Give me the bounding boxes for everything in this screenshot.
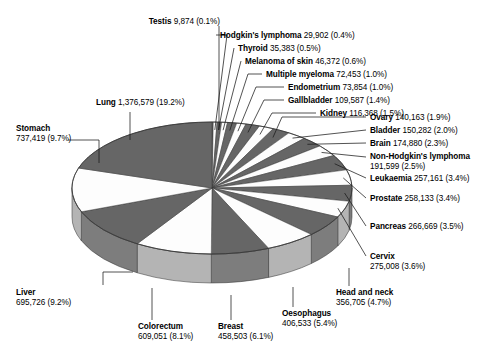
label-bladder: Bladder 150,282 (2.0%) xyxy=(370,126,458,136)
label-breast: Breast458,503 (6.1%) xyxy=(218,322,302,341)
label-hodgkins-lymphoma: Hodgkin's lymphoma 29,902 (0.4%) xyxy=(220,31,355,41)
label-stomach: Stomach737,419 (9.7%) xyxy=(16,124,102,143)
leader-bladder xyxy=(293,130,366,138)
label-pancreas: Pancreas 266,669 (3.5%) xyxy=(370,222,464,232)
label-lung: Lung 1,376,579 (19.2%) xyxy=(96,98,185,108)
leader-liver xyxy=(103,272,133,285)
label-leukaemia: Leukaemia 257,161 (3.4%) xyxy=(370,174,469,184)
leader-multiple-myeloma xyxy=(230,74,262,131)
label-cervix: Cervix275,008 (3.6%) xyxy=(370,252,482,271)
leader-melanoma-of-skin xyxy=(223,61,241,130)
label-head-and-neck: Head and neck356,705 (4.7%) xyxy=(336,288,432,307)
label-thyroid: Thyroid 35,383 (0.5%) xyxy=(238,44,321,54)
label-liver: Liver695,726 (9.2%) xyxy=(16,288,102,307)
label-colorectum: Colorectum609,051 (8.1%) xyxy=(138,322,224,341)
pie-top-faces xyxy=(72,122,352,254)
label-multiple-myeloma: Multiple myeloma 72,453 (1.0%) xyxy=(266,70,387,80)
label-testis: Testis 9,874 (0.1%) xyxy=(64,17,220,27)
pie-chart-figure: Testis 9,874 (0.1%) Hodgkin's lymphoma 2… xyxy=(0,0,486,352)
label-brain: Brain 174,880 (2.3%) xyxy=(370,139,448,149)
label-gallbladder: Gallbladder 109,587 (1.4%) xyxy=(288,96,390,106)
label-endometrium: Endometrium 73,854 (1.0%) xyxy=(288,83,393,93)
label-prostate: Prostate 258,133 (3.4%) xyxy=(370,194,460,204)
label-melanoma-of-skin: Melanoma of skin 46,372 (0.6%) xyxy=(245,57,366,67)
label-non-hodgkins-lymphoma: Non-Hodgkin's lymphoma 191,599 (2.5%) xyxy=(370,152,486,171)
label-ovary: Ovary 140,163 (1.9%) xyxy=(370,113,451,123)
